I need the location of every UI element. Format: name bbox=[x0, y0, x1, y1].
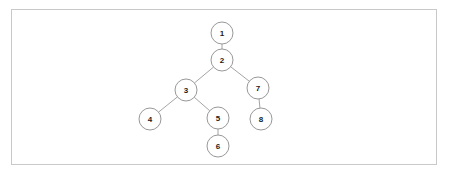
graph-node-5[interactable]: 5 bbox=[207, 107, 229, 129]
nodes-layer: 12345678 bbox=[139, 22, 272, 157]
graph-node-label-1: 1 bbox=[220, 29, 225, 38]
graph-node-label-8: 8 bbox=[259, 115, 264, 124]
graph-node-label-5: 5 bbox=[216, 114, 221, 123]
graph-node-label-3: 3 bbox=[184, 86, 189, 95]
graph-node-1[interactable]: 1 bbox=[211, 22, 233, 44]
graph-node-8[interactable]: 8 bbox=[250, 108, 272, 130]
tree-graph: 12345678 bbox=[0, 0, 449, 176]
graph-node-label-2: 2 bbox=[220, 56, 225, 65]
graph-edge-n2-n7 bbox=[231, 67, 250, 82]
graph-edge-n3-n5 bbox=[194, 97, 209, 111]
graph-node-label-6: 6 bbox=[216, 142, 221, 151]
diagram-canvas: 12345678 bbox=[0, 0, 449, 176]
graph-node-2[interactable]: 2 bbox=[211, 49, 233, 71]
graph-node-3[interactable]: 3 bbox=[175, 79, 197, 101]
graph-node-7[interactable]: 7 bbox=[247, 77, 269, 99]
graph-edge-n2-n3 bbox=[194, 67, 213, 83]
graph-node-label-4: 4 bbox=[148, 115, 153, 124]
graph-node-6[interactable]: 6 bbox=[207, 135, 229, 157]
graph-node-label-7: 7 bbox=[256, 84, 261, 93]
graph-edge-n7-n8 bbox=[259, 99, 260, 108]
graph-node-4[interactable]: 4 bbox=[139, 108, 161, 130]
graph-edge-n3-n4 bbox=[159, 97, 178, 112]
